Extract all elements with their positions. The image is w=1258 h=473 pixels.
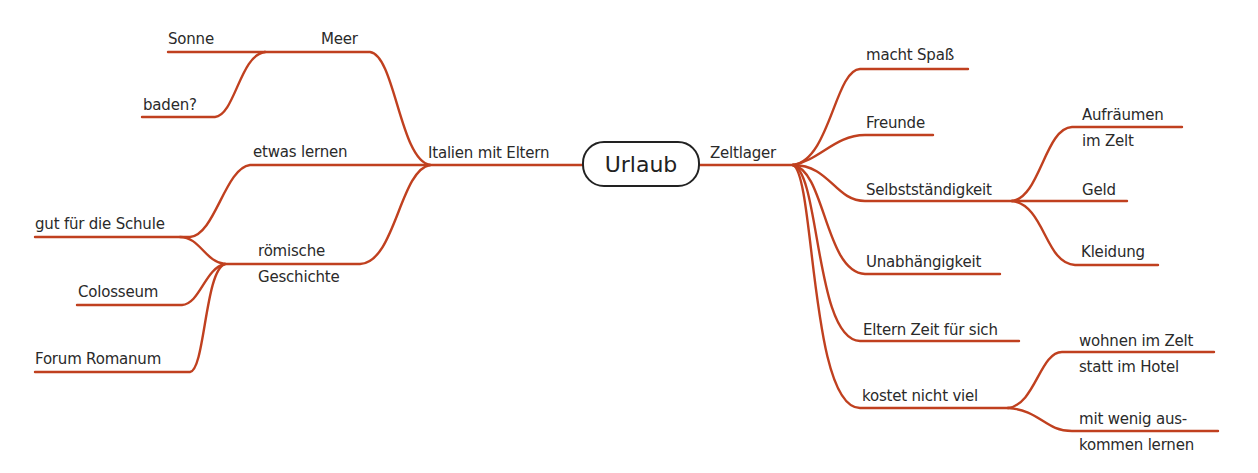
- topic-freunde[interactable]: Freunde: [866, 114, 925, 132]
- topic-forum-romanum[interactable]: Forum Romanum: [35, 350, 161, 368]
- topic-macht-spass[interactable]: macht Spaß: [866, 46, 954, 64]
- topic-selbststaendigkeit[interactable]: Selbstständigkeit: [866, 181, 992, 199]
- topic-roemische-line1[interactable]: römische: [258, 242, 325, 260]
- topic-zeltlager[interactable]: Zeltlager: [710, 144, 776, 162]
- topic-etwas-lernen[interactable]: etwas lernen: [253, 143, 347, 161]
- topic-kleidung[interactable]: Kleidung: [1081, 243, 1145, 261]
- topic-mit-wenig-line1[interactable]: mit wenig aus-: [1079, 410, 1187, 428]
- topic-eltern-zeit[interactable]: Eltern Zeit für sich: [863, 321, 998, 339]
- topic-baden[interactable]: baden?: [143, 96, 197, 114]
- topic-geld[interactable]: Geld: [1082, 181, 1116, 199]
- topic-meer[interactable]: Meer: [321, 30, 358, 48]
- topic-aufraeumen-line1[interactable]: Aufräumen: [1082, 106, 1163, 124]
- mindmap-connectors: [0, 0, 1258, 473]
- topic-italien[interactable]: Italien mit Eltern: [428, 144, 549, 162]
- topic-unabhaengigkeit[interactable]: Unabhängigkeit: [866, 253, 981, 271]
- topic-sonne[interactable]: Sonne: [168, 30, 214, 48]
- topic-aufraeumen-line2[interactable]: im Zelt: [1082, 132, 1134, 150]
- topic-wohnen-line1[interactable]: wohnen im Zelt: [1079, 332, 1193, 350]
- topic-gut-fuer-schule[interactable]: gut für die Schule: [35, 215, 165, 233]
- topic-colosseum[interactable]: Colosseum: [78, 283, 158, 301]
- topic-kostet-nicht-viel[interactable]: kostet nicht viel: [862, 387, 978, 405]
- topic-mit-wenig-line2[interactable]: kommen lernen: [1079, 436, 1194, 454]
- topic-roemische-line2[interactable]: Geschichte: [258, 268, 339, 286]
- topic-wohnen-line2[interactable]: statt im Hotel: [1079, 358, 1179, 376]
- central-topic[interactable]: Urlaub: [582, 141, 700, 187]
